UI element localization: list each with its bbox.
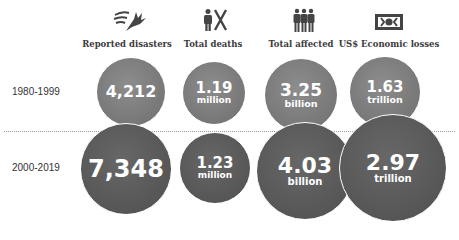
row-label-1980-1999: 1980-1999 [12, 86, 60, 97]
storm-wind-icon [112, 9, 148, 33]
person-cross-icon [202, 8, 228, 32]
bubble-disasters-1980-1999: 4,212 [96, 57, 166, 127]
bubble-value: 3.25 [280, 82, 322, 99]
bubble-value: 2.97 [366, 152, 420, 174]
bubble-value: 1.19 [195, 81, 232, 96]
column-header-total-affected: Total affected [269, 39, 334, 49]
bubble-unit: billion [288, 177, 323, 187]
bubble-value: 1.63 [366, 80, 403, 95]
bubble-deaths-1980-1999: 1.19 million [182, 61, 246, 125]
bubble-value: 7,348 [88, 157, 164, 181]
bubble-affected-1980-1999: 3.25 billion [264, 58, 338, 132]
bubble-unit: billion [284, 99, 317, 109]
bubble-deaths-2000-2019: 1.23 million [179, 132, 251, 204]
bubble-losses-2000-2019: 2.97 trillion [339, 114, 447, 222]
bubble-value: 4.03 [278, 155, 332, 177]
banknote-icon [374, 13, 404, 31]
bubble-unit: trillion [367, 95, 403, 105]
bubble-unit: million [198, 171, 232, 180]
column-header-economic-losses: US$ Economic losses [339, 39, 440, 49]
bubble-disasters-2000-2019: 7,348 [80, 123, 172, 215]
row-label-2000-2019: 2000-2019 [12, 162, 60, 173]
bubble-value: 1.23 [196, 156, 233, 171]
people-group-icon [292, 8, 316, 34]
bubble-unit: million [197, 96, 231, 105]
column-header-reported-disasters: Reported disasters [82, 39, 172, 49]
bubble-unit: trillion [374, 174, 411, 184]
bubble-value: 4,212 [106, 84, 157, 100]
column-header-total-deaths: Total deaths [184, 39, 242, 49]
